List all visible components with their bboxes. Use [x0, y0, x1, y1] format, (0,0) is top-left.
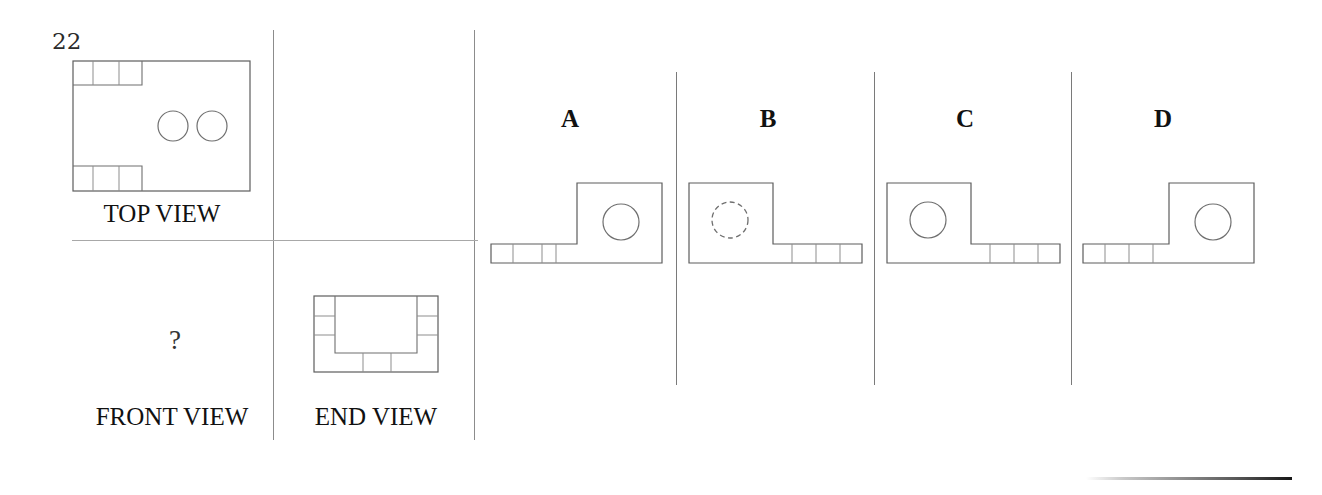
- option-divider-c-d: [1071, 72, 1072, 385]
- option-divider-b-c: [874, 72, 875, 385]
- option-label-b: B: [738, 105, 798, 133]
- question-number: 22: [52, 28, 81, 54]
- divider-vertical-right: [474, 30, 475, 440]
- option-drawing-d[interactable]: [1082, 182, 1258, 264]
- front-view-question-mark: ?: [155, 325, 195, 356]
- page-bottom-rule: [1086, 477, 1292, 480]
- option-drawing-c[interactable]: [886, 182, 1062, 264]
- option-divider-a-b: [676, 72, 677, 385]
- option-drawing-b[interactable]: [688, 182, 864, 264]
- end-view-label: END VIEW: [303, 403, 449, 431]
- option-label-c: C: [935, 105, 995, 133]
- worksheet-page: 22 TOP VIEW ? FRONT VIEW: [0, 0, 1322, 495]
- top-view-drawing: [72, 60, 252, 192]
- divider-vertical-left: [273, 30, 274, 440]
- option-label-a: A: [540, 105, 600, 133]
- option-label-d: D: [1133, 105, 1193, 133]
- end-view-drawing: [313, 295, 439, 373]
- option-drawing-a[interactable]: [490, 182, 666, 264]
- divider-horizontal: [72, 240, 478, 241]
- front-view-label: FRONT VIEW: [82, 403, 262, 431]
- top-view-label: TOP VIEW: [72, 200, 252, 228]
